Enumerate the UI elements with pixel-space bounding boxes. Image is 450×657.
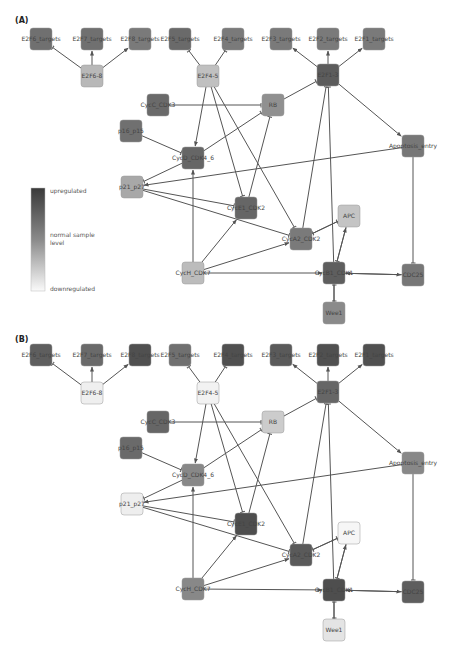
node-cyca2_cdk2[interactable]: CycA2_CDK2	[282, 544, 321, 566]
node-cdc25[interactable]: CDC25	[402, 264, 424, 286]
node-cycc_cdk3[interactable]: CycC_CDK3	[141, 411, 176, 433]
legend-bottom-label: downregulated	[50, 285, 95, 293]
node-label: E2F1-3	[318, 71, 339, 78]
node-rb[interactable]: RB	[262, 411, 284, 433]
node-e2f1_targets[interactable]: E2F1_targets	[354, 344, 393, 366]
node-label: CycA2_CDK2	[282, 235, 321, 243]
node-label: p16_p15	[118, 127, 144, 135]
node-label: CycC_CDK3	[141, 101, 176, 109]
node-e2f1_targets[interactable]: E2F1_targets	[354, 28, 393, 50]
node-e2f6_targets[interactable]: E2F6_targets	[21, 344, 60, 366]
node-label: E2F2_targets	[308, 351, 347, 359]
node-label: E2F8_targets	[120, 351, 159, 359]
node-rb[interactable]: RB	[262, 94, 284, 116]
node-p21_p27[interactable]: p21_p27	[119, 493, 145, 515]
edge-E2F6-8-to-E2F6_targets	[53, 364, 81, 385]
node-label: CycH_CDK7	[175, 269, 210, 277]
edge-CycB1_CDK1-to-APC	[337, 545, 346, 579]
node-cycd_cdk4_6[interactable]: CycD_CDK4_6	[172, 147, 214, 169]
edge-CycD_CDK4_6-to-p21_p27	[144, 480, 182, 498]
legend-gradient-bar	[31, 188, 45, 291]
node-label: CycD_CDK4_6	[172, 154, 214, 162]
node-e2f2_targets[interactable]: E2F2_targets	[308, 28, 347, 50]
edge-RB-to-E2F1-3	[284, 81, 316, 99]
edge-CycD_CDK4_6-to-p21_p27	[144, 163, 182, 181]
node-e2f3_targets[interactable]: E2F3_targets	[261, 28, 300, 50]
node-label: p21_p27	[119, 500, 145, 508]
node-cyce1_cdk2[interactable]: CycE1_CDK2	[227, 197, 265, 219]
node-label: Wee1	[326, 626, 343, 633]
node-e2f5_targets[interactable]: E2F5_targets	[160, 28, 199, 50]
node-wee1[interactable]: Wee1	[323, 619, 345, 641]
node-cycc_cdk3[interactable]: CycC_CDK3	[141, 94, 176, 116]
edge-E2F4-5-to-E2F4_targets	[215, 367, 225, 382]
node-label: E2F1_targets	[354, 351, 393, 359]
node-wee1[interactable]: Wee1	[323, 302, 345, 324]
node-e2f6-8[interactable]: E2F6-8	[81, 382, 103, 404]
node-label: CycD_CDK4_6	[172, 471, 214, 479]
node-e2f2_targets[interactable]: E2F2_targets	[308, 344, 347, 366]
node-label: p21_p27	[119, 183, 145, 191]
edge-E2F4-5-to-E2F5_targets	[189, 367, 200, 382]
node-label: RB	[269, 101, 277, 108]
node-e2f7_targets[interactable]: E2F7_targets	[72, 344, 111, 366]
edge-CycH_CDK7-to-CycA2_CDK2	[204, 243, 289, 270]
node-e2f4_targets[interactable]: E2F4_targets	[213, 344, 252, 366]
node-e2f4-5[interactable]: E2F4-5	[197, 382, 219, 404]
node-e2f6-8[interactable]: E2F6-8	[81, 65, 103, 87]
edge-E2F4-5-to-CycE1_CDK2	[211, 404, 242, 512]
node-label: RB	[269, 418, 277, 425]
node-cycb1_cdk1[interactable]: CycB1_CDK1	[315, 262, 354, 284]
edge-p21_p27-to-CycA2_CDK2	[143, 507, 289, 551]
node-cycb1_cdk1[interactable]: CycB1_CDK1	[315, 579, 354, 601]
edge-CycB1_CDK1-to-CDC25	[345, 273, 401, 274]
node-e2f7_targets[interactable]: E2F7_targets	[72, 28, 111, 50]
edge-E2F1-3-to-E2F3_targets	[293, 48, 317, 67]
edge-CycE1_CDK2-to-RB	[249, 434, 270, 513]
node-label: CycH_CDK7	[175, 585, 210, 593]
node-e2f8_targets[interactable]: E2F8_targets	[120, 28, 159, 50]
node-apc[interactable]: APC	[338, 522, 360, 544]
node-label: E2F5_targets	[160, 35, 199, 43]
edge-p21_p27-to-CycE1_CDK2	[143, 189, 234, 206]
node-cyca2_cdk2[interactable]: CycA2_CDK2	[282, 228, 321, 250]
node-apoptosis_entry[interactable]: Apoptosis_entry	[389, 452, 438, 474]
node-e2f5_targets[interactable]: E2F5_targets	[160, 344, 199, 366]
edge-CycH_CDK7-to-CycA2_CDK2	[204, 559, 289, 586]
node-e2f4_targets[interactable]: E2F4_targets	[213, 28, 252, 50]
edge-CycH_CDK7-to-CycE1_CDK2	[202, 220, 236, 262]
node-p21_p27[interactable]: p21_p27	[119, 176, 145, 198]
node-cych_cdk7[interactable]: CycH_CDK7	[175, 262, 210, 284]
edge-E2F6-8-to-E2F8_targets	[103, 48, 128, 67]
node-e2f1-3[interactable]: E2F1-3	[317, 381, 339, 403]
node-e2f8_targets[interactable]: E2F8_targets	[120, 344, 159, 366]
edge-E2F1-3-to-E2F1_targets	[339, 364, 362, 383]
node-label: E2F6-8	[82, 389, 103, 396]
node-e2f3_targets[interactable]: E2F3_targets	[261, 344, 300, 366]
edge-E2F6-8-to-E2F8_targets	[103, 364, 128, 384]
node-label: CycB1_CDK1	[315, 586, 354, 594]
edge-CycA2_CDK2-to-E2F1-3	[303, 87, 326, 228]
node-cyce1_cdk2[interactable]: CycE1_CDK2	[227, 513, 265, 535]
node-label: APC	[343, 529, 355, 536]
node-label: E2F3_targets	[261, 351, 300, 359]
node-cych_cdk7[interactable]: CycH_CDK7	[175, 578, 210, 600]
node-label: Apoptosis_entry	[389, 459, 438, 467]
node-label: E2F8_targets	[120, 35, 159, 43]
node-e2f1-3[interactable]: E2F1-3	[317, 64, 339, 86]
node-label: E2F6_targets	[21, 35, 60, 43]
node-apc[interactable]: APC	[338, 205, 360, 227]
node-p16_p15[interactable]: p16_p15	[118, 437, 144, 459]
edge-CycA2_CDK2-to-E2F1-3	[303, 404, 326, 544]
node-p16_p15[interactable]: p16_p15	[118, 120, 144, 142]
node-cdc25[interactable]: CDC25	[402, 581, 424, 603]
edge-APC-to-CycA2_CDK2	[313, 221, 338, 233]
node-cycd_cdk4_6[interactable]: CycD_CDK4_6	[172, 464, 214, 486]
node-label: CycC_CDK3	[141, 418, 176, 426]
node-label: CDC25	[403, 588, 424, 595]
edge-p16_p15-to-CycD_CDK4_6	[142, 136, 181, 153]
node-apoptosis_entry[interactable]: Apoptosis_entry	[389, 135, 438, 157]
color-legend: upregulated normal sample level downregu…	[31, 187, 95, 293]
node-e2f4-5[interactable]: E2F4-5	[197, 65, 219, 87]
node-e2f6_targets[interactable]: E2F6_targets	[21, 28, 60, 50]
